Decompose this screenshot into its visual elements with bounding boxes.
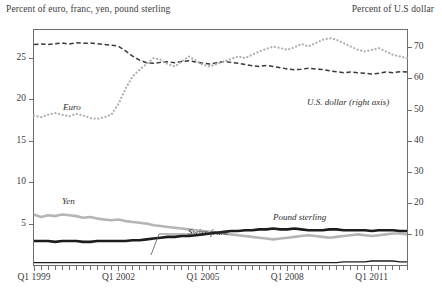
right-tick-mark	[408, 78, 412, 79]
right-tick-label: 40	[414, 135, 424, 145]
x-minor-tick	[350, 266, 351, 270]
left-tick-label: 5	[0, 218, 26, 228]
left-axis-title: Percent of euro, franc, yen, pound sterl…	[6, 4, 170, 14]
x-minor-tick	[55, 266, 56, 270]
x-minor-tick	[97, 266, 98, 270]
left-tick-label: 10	[0, 176, 26, 186]
right-tick-mark	[408, 110, 412, 111]
right-tick-label: 10	[414, 228, 424, 238]
right-tick-mark	[408, 141, 412, 142]
x-minor-tick	[153, 266, 154, 270]
x-minor-tick	[392, 266, 393, 270]
x-minor-tick	[146, 266, 147, 270]
x-tick-label: Q1 1999	[18, 272, 51, 282]
x-minor-tick	[181, 266, 182, 270]
x-minor-tick	[104, 266, 105, 270]
x-minor-tick	[407, 266, 408, 270]
annotation-us-dollar: U.S. dollar (right axis)	[307, 97, 389, 107]
x-major-tick	[202, 266, 203, 271]
x-tick-label: Q1 2008	[271, 272, 304, 282]
right-tick-label: 20	[414, 197, 424, 207]
right-tick-mark	[408, 47, 412, 48]
right-tick-mark	[408, 203, 412, 204]
x-minor-tick	[308, 266, 309, 270]
x-minor-tick	[336, 266, 337, 270]
x-minor-tick	[83, 266, 84, 270]
x-minor-tick	[343, 266, 344, 270]
x-minor-tick	[216, 266, 217, 270]
annotation-swiss-franc: Swiss franc	[188, 227, 229, 237]
x-minor-tick	[174, 266, 175, 270]
x-minor-tick	[188, 266, 189, 270]
left-tick-label: 15	[0, 135, 26, 145]
x-minor-tick	[111, 266, 112, 270]
x-major-tick	[287, 266, 288, 271]
left-tick-mark	[29, 58, 33, 59]
x-minor-tick	[301, 266, 302, 270]
left-tick-mark	[29, 141, 33, 142]
left-tick-label: 20	[0, 93, 26, 103]
annotation-yen: Yen	[62, 196, 75, 206]
x-minor-tick	[378, 266, 379, 270]
right-tick-mark	[408, 234, 412, 235]
right-tick-label: 50	[414, 104, 424, 114]
x-minor-tick	[266, 266, 267, 270]
series-line	[34, 261, 407, 263]
chart-figure: Percent of euro, franc, yen, pound sterl…	[0, 0, 442, 296]
x-minor-tick	[195, 266, 196, 270]
x-major-tick	[371, 266, 372, 271]
x-minor-tick	[238, 266, 239, 270]
x-minor-tick	[315, 266, 316, 270]
x-tick-label: Q1 2002	[102, 272, 135, 282]
x-minor-tick	[160, 266, 161, 270]
x-minor-tick	[357, 266, 358, 270]
x-minor-tick	[245, 266, 246, 270]
x-minor-tick	[90, 266, 91, 270]
annotation-pound-sterling: Pound sterling	[273, 212, 326, 222]
x-minor-tick	[252, 266, 253, 270]
x-minor-tick	[167, 266, 168, 270]
x-minor-tick	[231, 266, 232, 270]
x-minor-tick	[259, 266, 260, 270]
x-minor-tick	[69, 266, 70, 270]
x-minor-tick	[322, 266, 323, 270]
right-axis-title: Percent of U.S dollar	[352, 4, 434, 14]
x-tick-label: Q1 2005	[186, 272, 219, 282]
annotation-euro: Euro	[63, 102, 81, 112]
x-minor-tick	[48, 266, 49, 270]
left-tick-label: 25	[0, 52, 26, 62]
x-minor-tick	[139, 266, 140, 270]
right-tick-mark	[408, 172, 412, 173]
left-tick-mark	[29, 99, 33, 100]
x-minor-tick	[329, 266, 330, 270]
left-tick-mark	[29, 182, 33, 183]
x-minor-tick	[62, 266, 63, 270]
x-minor-tick	[399, 266, 400, 270]
x-minor-tick	[385, 266, 386, 270]
x-minor-tick	[132, 266, 133, 270]
x-minor-tick	[280, 266, 281, 270]
x-minor-tick	[224, 266, 225, 270]
x-major-tick	[34, 266, 35, 271]
x-minor-tick	[273, 266, 274, 270]
x-minor-tick	[76, 266, 77, 270]
right-tick-label: 70	[414, 41, 424, 51]
right-tick-label: 30	[414, 166, 424, 176]
x-minor-tick	[294, 266, 295, 270]
x-tick-label: Q1 2011	[355, 272, 388, 282]
left-tick-mark	[29, 224, 33, 225]
x-minor-tick	[125, 266, 126, 270]
x-minor-tick	[41, 266, 42, 270]
x-major-tick	[118, 266, 119, 271]
right-tick-label: 60	[414, 72, 424, 82]
x-minor-tick	[209, 266, 210, 270]
x-minor-tick	[364, 266, 365, 270]
